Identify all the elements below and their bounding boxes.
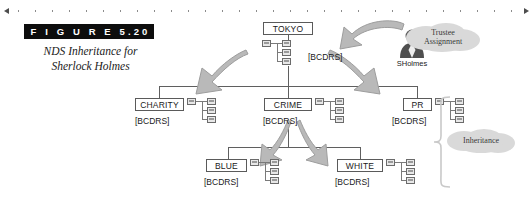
node-white[interactable]: WHITE	[337, 159, 383, 172]
object-icon	[270, 159, 279, 166]
node-crime[interactable]: CRIME	[264, 98, 312, 111]
top-dotted-rule	[0, 8, 531, 14]
object-icon	[270, 177, 279, 184]
server-icon	[250, 159, 259, 166]
inheritance-arrow-to-charity-icon	[192, 48, 258, 98]
callout-inheritance-label: Inheritance	[463, 136, 499, 146]
server-icon	[386, 159, 395, 166]
connector-to-pr	[417, 86, 418, 98]
object-icon	[270, 168, 279, 175]
user-sholmes-label: SHolmes	[388, 59, 436, 68]
callout-trustee-line-1: Trustee	[424, 28, 462, 38]
connector-tokyo-down	[288, 66, 289, 86]
rights-tokyo: [BCDRS]	[308, 52, 342, 62]
figure-label: F I G U R E 5.20	[24, 24, 154, 39]
object-icon	[406, 168, 415, 175]
connector-to-white	[360, 147, 361, 159]
node-blue[interactable]: BLUE	[206, 159, 247, 172]
callout-trustee-line-2: Assignment	[424, 37, 462, 47]
connector-to-charity	[159, 86, 160, 98]
figure-caption: NDS Inheritance for Sherlock Holmes	[8, 44, 173, 74]
rights-charity: [BCDRS]	[135, 116, 169, 126]
rule-left-marker-icon	[4, 8, 9, 14]
connector-to-crime	[288, 86, 289, 98]
object-icon	[335, 98, 344, 105]
node-crime-icon-cluster	[315, 98, 349, 124]
object-icon	[335, 116, 344, 123]
rule-right-marker-icon	[524, 8, 529, 14]
object-icon	[406, 177, 415, 184]
inheritance-arrow-to-white-icon	[294, 118, 330, 168]
object-icon	[282, 40, 291, 47]
figure-caption-line-1: NDS Inheritance for	[8, 44, 173, 59]
callout-trustee-assignment: Trustee Assignment	[404, 22, 482, 52]
node-tokyo-icon-cluster	[262, 40, 296, 66]
object-icon	[207, 116, 216, 123]
connector-to-blue	[228, 147, 229, 159]
node-white-icon-cluster	[386, 159, 420, 185]
rights-pr: [BCDRS]	[392, 116, 426, 126]
rights-crime: [BCDRS]	[263, 116, 297, 126]
node-tokyo[interactable]: TOKYO	[263, 22, 313, 35]
object-icon	[282, 58, 291, 65]
rights-blue: [BCDRS]	[204, 177, 238, 187]
figure-page: F I G U R E 5.20 NDS Inheritance for She…	[0, 0, 531, 213]
server-icon	[262, 40, 271, 47]
object-icon	[335, 107, 344, 114]
rule-dots	[10, 10, 521, 12]
callout-inheritance: Inheritance	[446, 128, 516, 154]
server-icon	[315, 98, 324, 105]
server-icon	[187, 98, 196, 105]
node-charity[interactable]: CHARITY	[135, 98, 184, 111]
object-icon	[406, 159, 415, 166]
rights-white: [BCDRS]	[335, 177, 369, 187]
object-icon	[207, 98, 216, 105]
node-charity-icon-cluster	[187, 98, 221, 124]
object-icon	[282, 49, 291, 56]
object-icon	[207, 107, 216, 114]
node-blue-icon-cluster	[250, 159, 284, 185]
figure-caption-line-2: Sherlock Holmes	[8, 59, 173, 74]
node-pr[interactable]: PR	[403, 98, 432, 111]
